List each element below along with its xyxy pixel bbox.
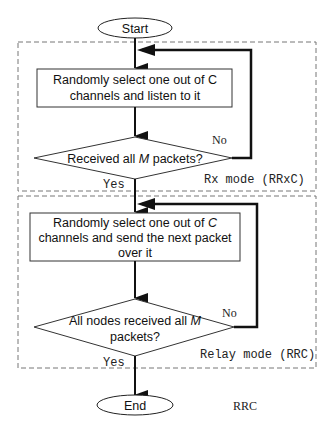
rx-no-loop-arrowhead (137, 44, 155, 56)
relay-process-line2: channels and send the next packet (38, 231, 232, 245)
rx-mode-label: Rx mode (RRxC) (204, 173, 305, 187)
relay-decision-line1: All nodes received all M (69, 314, 202, 328)
rx-yes-label: Yes (103, 178, 125, 192)
end-label: End (124, 399, 146, 413)
relay-mode-label: Relay mode (RRC) (200, 348, 315, 362)
relay-no-loop-arrowhead (137, 198, 155, 210)
relay-process-line3: over it (118, 246, 153, 260)
start-label: Start (122, 22, 149, 36)
relay-no-label: No (222, 306, 237, 320)
rx-process-line2: channels and listen to it (70, 89, 201, 103)
flowchart: Start Randomly select one out of C chann… (0, 0, 332, 428)
relay-decision-line2: packets? (110, 330, 160, 344)
rx-no-label: No (212, 133, 227, 147)
rx-process-line1: Randomly select one out of C (53, 73, 217, 87)
caption: RRC (233, 399, 257, 413)
rx-decision-label: Received all M packets? (67, 152, 203, 166)
relay-process-line1: Randomly select one out of C (53, 216, 218, 230)
relay-yes-label: Yes (103, 356, 125, 370)
